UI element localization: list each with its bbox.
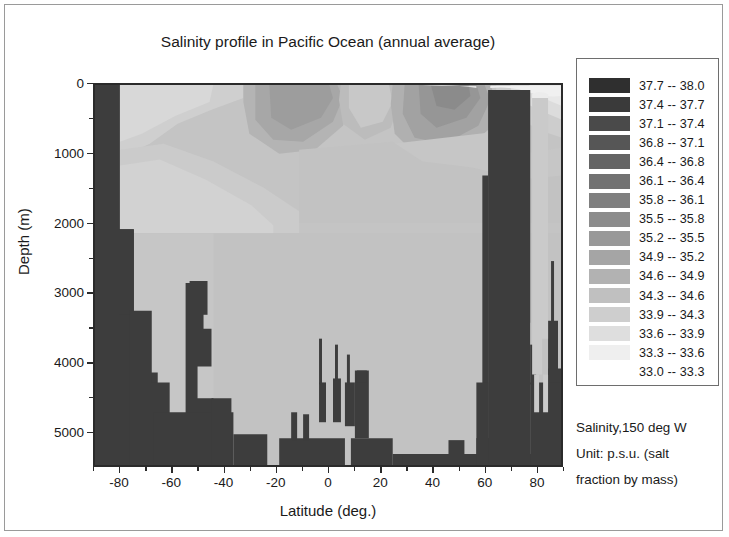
x-tick-minor-90 xyxy=(563,467,564,471)
legend-row: 33.6 -- 33.9 xyxy=(589,324,705,343)
x-tick-label-m20: -20 xyxy=(266,475,286,490)
legend-row: 36.8 -- 37.1 xyxy=(589,133,705,152)
legend-label: 35.5 -- 35.8 xyxy=(639,212,705,226)
x-tick-label-80: 80 xyxy=(529,475,544,490)
y-tick-label-4000: 4000 xyxy=(54,355,84,370)
legend-row: 33.3 -- 33.6 xyxy=(589,343,705,362)
y-tick-minor-2500 xyxy=(89,258,93,259)
legend-label: 37.4 -- 37.7 xyxy=(639,98,705,112)
x-tick-minor-m30 xyxy=(250,467,251,471)
legend-caption: Salinity,150 deg WUnit: p.s.u. (saltfrac… xyxy=(576,415,729,493)
legend-label: 34.6 -- 34.9 xyxy=(639,269,705,283)
legend-label: 36.8 -- 37.1 xyxy=(639,136,705,150)
legend-swatch xyxy=(589,135,630,150)
legend-label: 34.9 -- 35.2 xyxy=(639,250,705,264)
x-tick-label-20: 20 xyxy=(373,475,388,490)
x-tick-label-m40: -40 xyxy=(214,475,234,490)
y-tick-label-5000: 5000 xyxy=(54,425,84,440)
x-tick-minor-70 xyxy=(511,467,512,471)
y-tick-0 xyxy=(87,83,93,84)
legend-row: 36.1 -- 36.4 xyxy=(589,171,705,190)
x-tick-label-40: 40 xyxy=(425,475,440,490)
legend-swatch xyxy=(589,193,630,208)
x-tick-20 xyxy=(380,467,381,473)
legend-row: 37.7 -- 38.0 xyxy=(589,76,705,95)
x-tick-minor-10 xyxy=(354,467,355,471)
x-tick-minor-m90 xyxy=(93,467,94,471)
x-tick-minor-m10 xyxy=(302,467,303,471)
y-tick-5000 xyxy=(87,432,93,433)
figure-frame: Salinity profile in Pacific Ocean (annua… xyxy=(4,4,723,531)
legend-swatch xyxy=(589,97,630,112)
legend-swatch xyxy=(589,326,630,341)
legend-swatch xyxy=(589,154,630,169)
legend-row: 34.6 -- 34.9 xyxy=(589,267,705,286)
x-tick-label-m80: -80 xyxy=(109,475,129,490)
legend-entries: 37.7 -- 38.037.4 -- 37.737.1 -- 37.436.8… xyxy=(589,76,705,382)
legend-swatch xyxy=(589,78,630,93)
y-tick-3000 xyxy=(87,292,93,293)
legend-label: 36.4 -- 36.8 xyxy=(639,155,705,169)
legend-row: 35.8 -- 36.1 xyxy=(589,191,705,210)
x-tick-m40 xyxy=(224,467,225,473)
legend-swatch xyxy=(589,250,630,265)
y-tick-label-3000: 3000 xyxy=(54,285,84,300)
legend-caption-line: Unit: p.s.u. (salt xyxy=(576,441,729,467)
x-tick-m60 xyxy=(171,467,172,473)
y-tick-label-1000: 1000 xyxy=(54,145,84,160)
legend-label: 35.2 -- 35.5 xyxy=(639,231,705,245)
x-axis-title: Latitude (deg.) xyxy=(93,502,563,519)
chart-title: Salinity profile in Pacific Ocean (annua… xyxy=(93,33,563,51)
legend-label: 37.7 -- 38.0 xyxy=(639,79,705,93)
y-tick-1000 xyxy=(87,153,93,154)
legend-swatch xyxy=(589,345,630,360)
y-tick-2000 xyxy=(87,223,93,224)
x-tick-80 xyxy=(537,467,538,473)
x-tick-0 xyxy=(328,467,329,473)
legend-label: 33.6 -- 33.9 xyxy=(639,327,705,341)
x-tick-minor-30 xyxy=(406,467,407,471)
x-tick-40 xyxy=(432,467,433,473)
x-tick-60 xyxy=(485,467,486,473)
x-tick-label-m60: -60 xyxy=(162,475,182,490)
legend-caption-line: Salinity,150 deg W xyxy=(576,415,729,441)
x-tick-label-0: 0 xyxy=(324,475,332,490)
legend-label: 36.1 -- 36.4 xyxy=(639,174,705,188)
legend-swatch xyxy=(589,174,630,189)
legend-row: 33.9 -- 34.3 xyxy=(589,305,705,324)
y-tick-minor-3500 xyxy=(89,327,93,328)
y-tick-label-2000: 2000 xyxy=(54,215,84,230)
legend-row: 35.5 -- 35.8 xyxy=(589,210,705,229)
legend-swatch xyxy=(589,288,630,303)
y-tick-4000 xyxy=(87,362,93,363)
legend-swatch xyxy=(589,364,630,379)
salinity-contour-field xyxy=(94,84,562,466)
legend-label: 33.0 -- 33.3 xyxy=(639,365,705,379)
x-tick-label-60: 60 xyxy=(477,475,492,490)
legend-row: 36.4 -- 36.8 xyxy=(589,152,705,171)
x-tick-minor-m50 xyxy=(197,467,198,471)
legend-row: 37.4 -- 37.7 xyxy=(589,95,705,114)
legend-row: 37.1 -- 37.4 xyxy=(589,114,705,133)
legend-swatch xyxy=(589,212,630,227)
legend-swatch xyxy=(589,231,630,246)
x-tick-m20 xyxy=(276,467,277,473)
legend-swatch xyxy=(589,307,630,322)
plot-frame xyxy=(93,83,563,467)
legend-swatch xyxy=(589,116,630,131)
legend-caption-line: fraction by mass) xyxy=(576,467,729,493)
legend-box: 37.7 -- 38.037.4 -- 37.737.1 -- 37.436.8… xyxy=(576,58,719,386)
y-tick-minor-1500 xyxy=(89,188,93,189)
x-tick-minor-50 xyxy=(459,467,460,471)
y-axis-title: Depth (m) xyxy=(15,208,32,275)
legend-row: 33.0 -- 33.3 xyxy=(589,362,705,381)
legend-row: 35.2 -- 35.5 xyxy=(589,229,705,248)
legend-row: 34.9 -- 35.2 xyxy=(589,248,705,267)
legend-label: 37.1 -- 37.4 xyxy=(639,117,705,131)
legend-label: 35.8 -- 36.1 xyxy=(639,193,705,207)
plot-area: 0 1000 2000 3000 4000 5000 -80 -60 -40 -… xyxy=(93,83,563,467)
y-tick-minor-500 xyxy=(89,118,93,119)
legend-label: 33.9 -- 34.3 xyxy=(639,308,705,322)
legend-row: 34.3 -- 34.6 xyxy=(589,286,705,305)
legend-label: 33.3 -- 33.6 xyxy=(639,346,705,360)
